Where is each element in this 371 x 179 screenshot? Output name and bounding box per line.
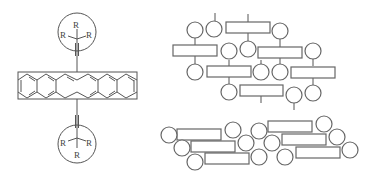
top-label-r3: R <box>86 30 92 40</box>
packing-circle <box>174 140 190 156</box>
packing-circle <box>251 149 267 165</box>
packing-circle <box>238 135 254 151</box>
packing-circle <box>286 87 302 103</box>
upper-packing-model <box>173 13 335 110</box>
packing-circle <box>329 129 345 145</box>
packing-rect <box>205 153 249 164</box>
top-substituent-group: R R R <box>58 13 96 72</box>
lower-packing-model <box>161 116 358 170</box>
packing-circle <box>161 127 177 143</box>
acene-core <box>18 72 137 99</box>
diagram-canvas: R R R <box>0 0 371 179</box>
packing-rect <box>191 141 235 152</box>
bottom-label-r3: R <box>74 150 80 160</box>
packing-circle <box>305 85 321 101</box>
molecule-structure: R R R <box>18 13 137 163</box>
packing-circle <box>264 135 280 151</box>
bottom-label-r2: R <box>86 138 92 148</box>
packing-rect <box>296 147 340 158</box>
top-label-r2: R <box>60 30 66 40</box>
packing-circle <box>305 43 321 59</box>
packing-circle <box>240 41 256 57</box>
packing-rect <box>258 47 302 58</box>
packing-circle <box>272 23 288 39</box>
packing-rect <box>226 22 270 33</box>
packing-rect <box>240 85 283 96</box>
packing-circle <box>277 149 293 165</box>
packing-circle <box>225 122 241 138</box>
packing-circle <box>206 21 222 37</box>
bottom-substituent-group: R R R <box>58 99 96 163</box>
packing-circle <box>342 142 358 158</box>
packing-circle <box>251 123 267 139</box>
packing-rect <box>291 67 335 78</box>
top-label-r1: R <box>73 20 79 30</box>
packing-rect <box>177 129 221 140</box>
packing-circle <box>272 64 288 80</box>
packing-circle <box>253 64 269 80</box>
bottom-label-r1: R <box>60 138 66 148</box>
packing-rect <box>282 134 326 145</box>
packing-rect <box>207 66 251 77</box>
packing-rect <box>173 45 217 56</box>
packing-circle <box>187 64 203 80</box>
packing-circle <box>187 22 203 38</box>
packing-circle <box>187 154 203 170</box>
packing-circle <box>221 84 237 100</box>
packing-rect <box>268 121 312 132</box>
packing-circle <box>316 116 332 132</box>
packing-circle <box>221 43 237 59</box>
